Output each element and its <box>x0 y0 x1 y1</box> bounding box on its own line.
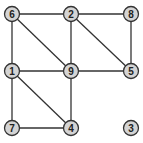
node-label: 7 <box>9 123 15 134</box>
node-3: 3 <box>124 121 139 136</box>
node-7: 7 <box>5 121 20 136</box>
node-8: 8 <box>124 7 139 22</box>
graph-diagram: 628195743 <box>0 0 143 143</box>
node-label: 1 <box>9 66 15 77</box>
node-label: 4 <box>68 123 74 134</box>
node-label: 3 <box>128 123 134 134</box>
edge-6-9 <box>12 14 71 71</box>
node-label: 5 <box>128 66 134 77</box>
node-4: 4 <box>64 121 79 136</box>
node-label: 6 <box>9 9 15 20</box>
node-1: 1 <box>5 64 20 79</box>
edge-2-5 <box>71 14 131 71</box>
node-label: 2 <box>68 9 74 20</box>
node-5: 5 <box>124 64 139 79</box>
node-2: 2 <box>64 7 79 22</box>
node-6: 6 <box>5 7 20 22</box>
node-label: 9 <box>68 66 74 77</box>
node-label: 8 <box>128 9 134 20</box>
node-9: 9 <box>64 64 79 79</box>
edge-1-4 <box>12 71 71 128</box>
